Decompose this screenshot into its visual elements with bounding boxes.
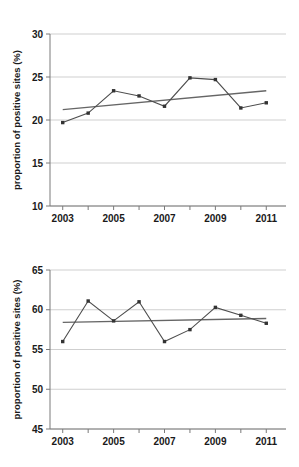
y-axis-title: proportion of positive sites (%) (11, 50, 22, 190)
data-point-marker (112, 89, 115, 92)
x-tick-label-2007: 2007 (153, 436, 176, 447)
y-tick-label-10: 10 (32, 201, 44, 212)
data-point-marker (163, 105, 166, 108)
x-tick-label-2003: 2003 (52, 213, 75, 224)
data-point-marker (163, 340, 166, 343)
data-point-marker (239, 106, 242, 109)
data-point-marker (214, 78, 217, 81)
trendline (63, 318, 267, 322)
y-tick-label-25: 25 (32, 72, 44, 83)
y-tick-label-30: 30 (32, 29, 44, 40)
chart-panel-bottom: 455055606520032005200720092011proportion… (0, 234, 299, 467)
y-tick-label-20: 20 (32, 115, 44, 126)
y-tick-label-55: 55 (32, 344, 44, 355)
data-point-marker (86, 111, 89, 114)
x-ticks-group: 20032005200720092011 (52, 206, 278, 224)
bottom-chart-svg: 455055606520032005200720092011proportion… (0, 234, 299, 467)
x-tick-label-2005: 2005 (102, 213, 125, 224)
data-point-marker (137, 94, 140, 97)
x-tick-label-2005: 2005 (102, 436, 125, 447)
gridlines-group (50, 34, 286, 206)
data-point-marker (265, 322, 268, 325)
x-tick-label-2003: 2003 (52, 436, 75, 447)
data-point-marker (112, 319, 115, 322)
gridlines-group (50, 270, 286, 429)
y-tick-label-65: 65 (32, 265, 44, 276)
top-chart-svg: 101520253020032005200720092011proportion… (0, 0, 299, 233)
y-ticks-group: 4550556065 (32, 265, 50, 435)
data-point-marker (265, 101, 268, 104)
x-tick-label-2011: 2011 (255, 213, 277, 224)
data-point-marker (61, 340, 64, 343)
y-tick-label-45: 45 (32, 424, 44, 435)
data-point-marker (239, 314, 242, 317)
y-tick-label-50: 50 (32, 384, 44, 395)
chart-panel-top: 101520253020032005200720092011proportion… (0, 0, 299, 233)
y-tick-label-60: 60 (32, 304, 44, 315)
x-ticks-group: 20032005200720092011 (52, 429, 278, 447)
data-point-marker (188, 76, 191, 79)
x-tick-label-2007: 2007 (153, 213, 176, 224)
y-ticks-group: 1015202530 (32, 29, 50, 212)
y-tick-label-15: 15 (32, 158, 44, 169)
x-tick-label-2009: 2009 (204, 436, 227, 447)
data-point-marker (61, 121, 64, 124)
figure-two-line-charts: 101520253020032005200720092011proportion… (0, 0, 299, 467)
data-point-marker (188, 328, 191, 331)
x-tick-label-2011: 2011 (255, 436, 277, 447)
data-point-marker (86, 299, 89, 302)
data-point-marker (137, 300, 140, 303)
y-axis-title: proportion of positive sites (%) (11, 280, 22, 420)
x-tick-label-2009: 2009 (204, 213, 227, 224)
data-point-marker (214, 306, 217, 309)
